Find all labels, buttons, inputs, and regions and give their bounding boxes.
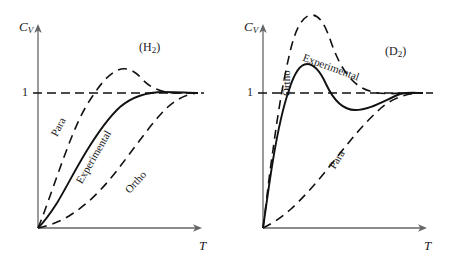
h2-curve-ortho [38,93,198,228]
d2-x-axis-label: T [424,239,431,252]
d2-plot-svg [225,0,450,266]
h2-y-tick-1: 1 [22,86,28,98]
d2-x-axis [263,224,427,232]
d2-y-axis-label: CV [244,20,258,35]
h2-x-axis-label: T [199,239,206,252]
d2-y-tick-1: 1 [247,86,253,98]
h2-panel-label: (H2) [139,41,160,55]
h2-x-axis [38,224,202,232]
d2-panel-label: (D2) [385,45,406,59]
h2-y-axis-label: CV [19,20,33,35]
figure-canvas: CV T 1 (H2) Para Experimental Ortho CV T… [0,0,450,266]
d2-label-ortho: Ortho [281,70,292,96]
d2-curve-para [263,93,423,228]
h2-y-axis [34,24,42,228]
d2-y-axis [259,24,267,228]
h2-curve-experimental [38,92,198,228]
